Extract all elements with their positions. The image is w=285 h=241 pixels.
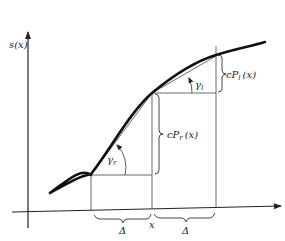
brace-delta-left xyxy=(94,214,151,223)
delta-left-label: Δ xyxy=(118,225,126,236)
brace-cp-l xyxy=(218,55,226,92)
delta-right-label: Δ xyxy=(181,225,189,236)
brace-delta-right xyxy=(154,213,215,222)
x-axis xyxy=(12,206,281,212)
cp-l-label: cPl(x) xyxy=(226,69,256,82)
gamma-r-arc xyxy=(117,145,126,175)
cp-r-label: cPr(x) xyxy=(167,129,198,142)
x-point-label: x xyxy=(149,219,155,230)
diagram-canvas: s(x) γr γl cPr(x) cPl(x) Δ x Δ xyxy=(0,0,285,241)
gamma-l-arc xyxy=(189,78,192,93)
curve-s-of-x xyxy=(50,42,265,193)
brace-cp-r xyxy=(155,94,163,174)
gamma-r-label: γr xyxy=(107,154,117,167)
y-axis-label: s(x) xyxy=(9,39,28,50)
secant-left xyxy=(152,56,216,93)
gamma-l-label: γl xyxy=(195,79,203,92)
